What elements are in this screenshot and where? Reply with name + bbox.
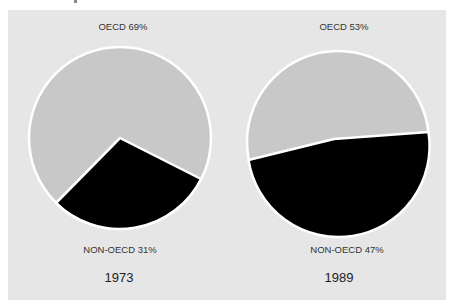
- non-oecd-label-1989: NON-OECD 47%: [267, 244, 427, 255]
- non-oecd-label-1973: NON-OECD 31%: [40, 244, 200, 255]
- pie-charts: [0, 0, 454, 308]
- pie-1973: [29, 47, 211, 229]
- pie-1989: [247, 51, 430, 237]
- oecd-label-1989: OECD 53%: [264, 21, 424, 32]
- year-label-1989: 1989: [289, 270, 389, 285]
- oecd-label-1973: OECD 69%: [43, 21, 203, 32]
- year-label-1973: 1973: [69, 270, 169, 285]
